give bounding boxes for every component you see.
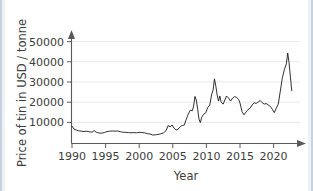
tin-price-line-chart: 50000 40000 30000 20000 10000 1990 1995 … <box>0 0 313 191</box>
y-tick-label: 40000 <box>29 56 64 69</box>
y-tick-labels: 50000 40000 30000 20000 10000 <box>29 36 64 130</box>
chart-screenshot: 50000 40000 30000 20000 10000 1990 1995 … <box>0 0 313 191</box>
x-tick-label: 2020 <box>260 150 288 163</box>
x-tick-labels: 1990 1995 2000 2005 2010 2015 2020 <box>58 150 288 163</box>
x-tick-label: 2000 <box>125 150 153 163</box>
y-axis-title: Price of tin in USD / tonne <box>15 19 29 167</box>
x-tick-label: 1990 <box>58 150 86 163</box>
x-tick-label: 2005 <box>159 150 187 163</box>
x-axis-title: Year <box>173 169 199 183</box>
y-tick-label: 10000 <box>29 116 64 129</box>
y-tick-label: 30000 <box>29 76 64 89</box>
x-tick-label: 2010 <box>192 150 220 163</box>
x-tick-label: 1995 <box>92 150 120 163</box>
x-tick-label: 2015 <box>226 150 254 163</box>
y-tick-label: 50000 <box>29 36 64 49</box>
y-axis <box>67 30 75 144</box>
x-axis <box>72 140 307 148</box>
y-tick-label: 20000 <box>29 96 64 109</box>
gridlines <box>72 42 300 123</box>
